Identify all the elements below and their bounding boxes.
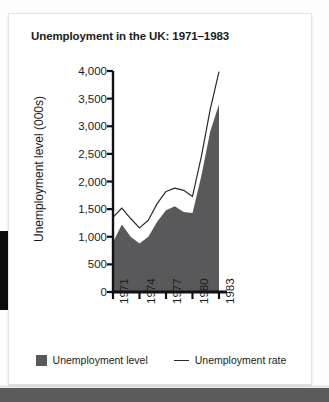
y-axis-tick-label: 2,000 — [59, 176, 107, 188]
legend-square-icon — [36, 355, 47, 366]
chart-svg — [9, 14, 313, 386]
legend-item-unemployment-rate[interactable]: Unemployment rate — [174, 354, 287, 366]
area-series-path — [113, 104, 219, 292]
chart-card: Unemployment in the UK: 1971–1983 Unempl… — [8, 13, 312, 385]
x-axis-tick-label: 1974 — [145, 278, 157, 304]
y-axis-tick-label: 3,000 — [59, 120, 107, 132]
y-axis-tick-label: 1,000 — [59, 231, 107, 243]
bottom-dark-band — [0, 388, 329, 402]
x-axis-tick-label: 1980 — [198, 278, 210, 304]
x-axis-tick-label: 1983 — [224, 278, 236, 304]
area-series-layer — [113, 104, 219, 292]
legend-item-unemployment-level[interactable]: Unemployment level — [36, 354, 148, 366]
x-axis-tick-label: 1971 — [118, 278, 130, 304]
x-axis-tick-label: 1977 — [171, 278, 183, 304]
y-axis-tick-label: 3,500 — [59, 93, 107, 105]
y-axis-tick-label: 500 — [59, 258, 107, 270]
y-axis-tick-label: 4,000 — [59, 65, 107, 77]
y-axis-tick-label: 2,500 — [59, 148, 107, 160]
y-axis-tick-label: 0 — [59, 286, 107, 298]
legend-label: Unemployment rate — [195, 354, 287, 366]
plot-area: 4,0003,5003,0002,5002,0001,5001,0005000 … — [9, 14, 313, 386]
chart-legend: Unemployment level Unemployment rate — [9, 354, 313, 366]
legend-line-icon — [174, 360, 189, 361]
legend-label: Unemployment level — [53, 354, 148, 366]
y-axis-tick-label: 1,500 — [59, 203, 107, 215]
